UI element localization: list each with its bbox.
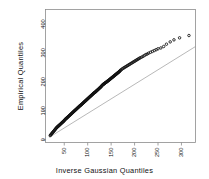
y-tick-label: 200 bbox=[40, 77, 46, 86]
y-tick-label: 100 bbox=[40, 106, 46, 115]
identity-line bbox=[49, 47, 195, 138]
data-points bbox=[49, 34, 190, 137]
qq-plot-figure: 50100150200250300 0100200300400 Inverse … bbox=[0, 0, 209, 179]
plot-frame bbox=[46, 10, 196, 143]
data-point bbox=[160, 47, 163, 50]
data-point bbox=[169, 41, 172, 44]
x-tick-label: 300 bbox=[178, 148, 184, 157]
y-tick-label: 0 bbox=[40, 138, 46, 141]
plot-canvas: 50100150200250300 0100200300400 bbox=[0, 0, 209, 179]
x-tick-label: 150 bbox=[108, 148, 114, 157]
data-point bbox=[188, 34, 191, 37]
x-axis-ticks: 50100150200250300 bbox=[61, 143, 184, 158]
data-point bbox=[157, 48, 160, 51]
data-point bbox=[165, 43, 168, 46]
y-axis-ticks: 0100200300400 bbox=[40, 19, 46, 141]
data-point bbox=[162, 45, 165, 48]
x-tick-label: 100 bbox=[84, 148, 90, 157]
x-tick-label: 200 bbox=[131, 148, 137, 157]
x-tick-label: 50 bbox=[61, 148, 67, 154]
x-tick-label: 250 bbox=[154, 148, 160, 157]
data-point bbox=[173, 39, 176, 42]
y-tick-label: 400 bbox=[40, 19, 46, 28]
x-axis-title: Inverse Gaussian Quantiles bbox=[0, 167, 209, 174]
y-axis-title: Empirical Quantiles bbox=[17, 9, 24, 143]
reference-line bbox=[49, 47, 195, 138]
y-tick-label: 300 bbox=[40, 48, 46, 57]
data-point bbox=[178, 37, 181, 40]
